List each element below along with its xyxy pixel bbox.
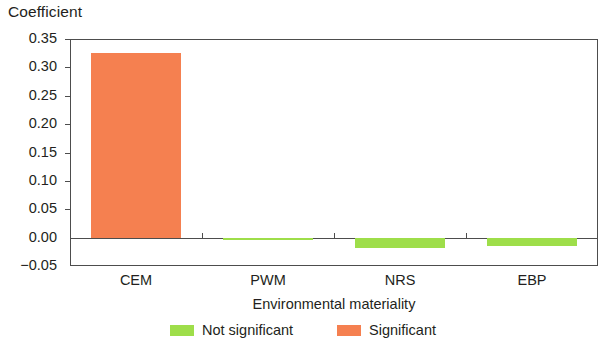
x-axis-title: Environmental materiality (70, 296, 598, 312)
y-axis-tick-label: 0.30 (0, 58, 64, 74)
y-axis-tick-mark (65, 67, 70, 68)
chart-legend: Not significantSignificant (0, 322, 606, 338)
bar-ebp (487, 238, 577, 247)
y-axis-tick-mark (65, 153, 70, 154)
y-axis-tick-mark (65, 39, 70, 40)
x-axis-tick-label-pwm: PWM (202, 272, 334, 288)
legend-label: Significant (369, 322, 436, 338)
x-axis-tick-mark (334, 233, 335, 238)
bar-pwm (223, 238, 313, 241)
legend-label: Not significant (202, 322, 293, 338)
x-axis-tick-label-ebp: EBP (466, 272, 598, 288)
y-axis-tick-mark (65, 209, 70, 210)
y-axis-tick-mark (65, 124, 70, 125)
legend-swatch-icon (170, 325, 194, 336)
y-axis-tick-label: 0.10 (0, 172, 64, 188)
y-axis-tick-mark (65, 181, 70, 182)
legend-item: Significant (337, 322, 436, 338)
y-axis-tick-label: 0.15 (0, 144, 64, 160)
y-axis-tick-mark (65, 96, 70, 97)
y-axis-tick-label: 0.35 (0, 30, 64, 46)
y-axis-tick-labels: 0.350.300.250.200.150.100.050.00−0.05 (0, 0, 64, 350)
bar-chart-figure: Coefficient 0.350.300.250.200.150.100.05… (0, 0, 606, 350)
y-axis-tick-label: 0.05 (0, 200, 64, 216)
x-axis-tick-label-cem: CEM (70, 272, 202, 288)
y-axis-tick-label: 0.25 (0, 87, 64, 103)
plot-area (70, 39, 598, 266)
legend-item: Not significant (170, 322, 293, 338)
x-axis-tick-mark (202, 233, 203, 238)
x-axis-tick-label-nrs: NRS (334, 272, 466, 288)
legend-swatch-icon (337, 325, 361, 336)
bar-cem (91, 53, 181, 237)
y-axis-tick-label: 0.20 (0, 115, 64, 131)
y-axis-tick-label: −0.05 (0, 257, 64, 273)
bar-nrs (355, 238, 445, 248)
x-axis-tick-mark (466, 233, 467, 238)
y-axis-tick-label: 0.00 (0, 229, 64, 245)
x-axis-tick-labels: CEMPWMNRSEBP (70, 272, 598, 294)
